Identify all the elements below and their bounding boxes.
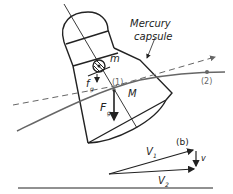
label-capsule: capsule — [134, 31, 172, 42]
label-mercury: Mercury — [130, 18, 172, 29]
label-Fg: F — [100, 101, 107, 114]
label-M: M — [128, 88, 137, 99]
label-V2-sub: 2 — [165, 181, 169, 188]
label-V1-sub: 1 — [153, 152, 157, 159]
label-fg-sub: g — [90, 85, 94, 93]
small-mass-m — [88, 60, 110, 76]
label-point-2: (2) — [201, 77, 212, 86]
point-2-marker — [205, 70, 209, 74]
label-m: m — [110, 53, 120, 64]
label-Fg-sub: g — [107, 109, 111, 117]
mercury-capsule-diagram: Mercury capsule m f g (1) (2) M F g (b) … — [0, 0, 233, 194]
label-panel-b: (b) — [176, 137, 189, 147]
label-point-1: (1) — [112, 78, 123, 87]
label-small-v: v — [201, 154, 206, 163]
